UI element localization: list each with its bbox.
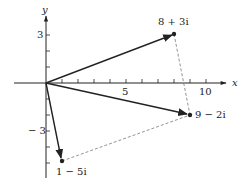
- y-axis: 3 − 3 y: [28, 4, 50, 178]
- x-tick-label-10: 10: [199, 86, 212, 97]
- dashed-line-p3-p2: [62, 115, 190, 161]
- y-tick-label-3: 3: [37, 29, 43, 40]
- point-label-9-minus-2i: 9 − 2i: [195, 109, 226, 120]
- point-label-8-plus-3i: 8 + 3i: [158, 16, 189, 27]
- point-9-minus-2i: [188, 113, 192, 117]
- dashed-line-p1-p2: [174, 34, 190, 115]
- point-label-1-minus-5i: 1 − 5i: [56, 166, 87, 177]
- x-axis-label: x: [232, 77, 238, 88]
- vector-8-plus-3i: [46, 35, 172, 83]
- vector-9-minus-2i: [46, 83, 187, 114]
- points: [60, 32, 192, 163]
- y-tick-label-neg3: − 3: [28, 125, 46, 136]
- x-tick-label-5: 5: [122, 86, 128, 97]
- vectors: [46, 35, 187, 158]
- point-1-minus-5i: [60, 159, 64, 163]
- x-ticks: [62, 79, 206, 83]
- complex-plane-diagram: 5 10 x 3 − 3 y 8 + 3: [0, 0, 250, 184]
- point-8-plus-3i: [172, 32, 176, 36]
- y-axis-label: y: [41, 4, 48, 15]
